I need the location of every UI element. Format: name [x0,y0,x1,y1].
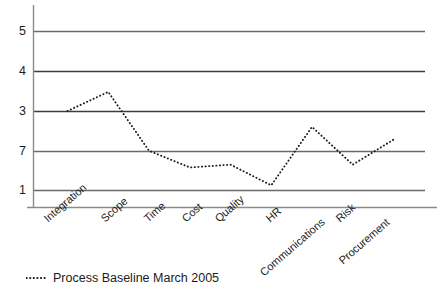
series-line-process-baseline [68,92,394,185]
y-tick-label-2: 7 [4,145,26,158]
legend-label-process-baseline: Process Baseline March 2005 [53,272,219,285]
gridlines [33,32,425,191]
y-tick-label-1: 1 [4,184,26,197]
y-tick-label-4: 4 [4,65,26,78]
chart-legend: Process Baseline March 2005 [26,272,219,285]
legend-dotted-line-icon [26,276,46,280]
line-chart: 5 4 3 7 1 Integration Scope Time Cost Qu… [0,0,439,296]
plot-area [0,0,439,296]
y-tick-label-3: 3 [4,105,26,118]
y-tick-label-5: 5 [4,25,26,38]
